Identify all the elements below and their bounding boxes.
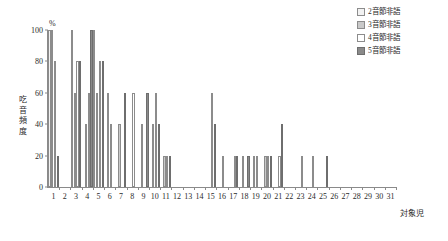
x-axis-tick-mark	[295, 187, 296, 190]
x-axis-tick-label: 3	[74, 192, 78, 201]
bar	[312, 156, 314, 187]
bar	[214, 124, 216, 187]
x-axis-tick-label: 22	[285, 192, 293, 201]
x-axis-tick-label: 15	[207, 192, 215, 201]
bar	[326, 156, 328, 187]
x-axis-tick-label: 10	[151, 192, 159, 201]
bar	[118, 124, 120, 187]
x-axis-tick-mark	[183, 187, 184, 190]
bar	[57, 156, 59, 187]
bar	[169, 156, 171, 187]
x-axis-tick-label: 5	[97, 192, 101, 201]
x-axis-title: 対象児	[400, 207, 424, 218]
x-axis-tick-mark	[59, 187, 60, 190]
bar	[79, 61, 81, 187]
x-axis-tick-label: 12	[173, 192, 181, 201]
x-axis-tick-label: 14	[196, 192, 204, 201]
y-axis-unit: %	[49, 19, 56, 28]
x-axis-tick-mark	[216, 187, 217, 190]
x-axis-tick-mark	[273, 187, 274, 190]
x-axis-tick-label: 1	[52, 192, 56, 201]
x-axis-tick-mark	[351, 187, 352, 190]
x-axis-tick-mark	[171, 187, 172, 190]
bar	[270, 156, 272, 187]
x-axis-tick-label: 30	[375, 192, 383, 201]
x-axis-tick-mark	[93, 187, 94, 190]
x-axis-tick-mark	[396, 187, 397, 190]
bar	[236, 156, 238, 187]
x-axis-tick-label: 29	[364, 192, 372, 201]
bar	[301, 156, 303, 187]
x-axis-tick-mark	[340, 187, 341, 190]
x-axis-tick-label: 2	[63, 192, 67, 201]
plot-area: 0204060801001234567891011121314151617181…	[47, 30, 396, 188]
x-axis-tick-label: 8	[130, 192, 134, 201]
x-axis-tick-label: 11	[162, 192, 170, 201]
legend-item-2: 2音節非語	[357, 6, 445, 17]
chart-root: 2音節非語 3音節非語 4音節非語 5音節非語 % 吃音頻度 020406080…	[0, 0, 448, 241]
x-axis-tick-mark	[160, 187, 161, 190]
x-axis-tick-label: 9	[141, 192, 145, 201]
x-axis-tick-mark	[70, 187, 71, 190]
bar	[146, 93, 148, 187]
legend-label-2-syllable: 2音節非語	[368, 6, 400, 17]
x-axis-tick-label: 27	[341, 192, 349, 201]
x-axis-tick-label: 25	[319, 192, 327, 201]
legend-label-3-syllable: 3音節非語	[368, 19, 400, 30]
bar	[141, 124, 143, 187]
x-axis-tick-label: 4	[85, 192, 89, 201]
x-axis-tick-mark	[194, 187, 195, 190]
x-axis-tick-mark	[239, 187, 240, 190]
bar	[247, 156, 249, 187]
bar	[222, 156, 224, 187]
bar	[242, 156, 244, 187]
x-axis-tick-label: 16	[218, 192, 226, 201]
x-axis-tick-label: 23	[297, 192, 305, 201]
x-axis-tick-mark	[284, 187, 285, 190]
x-axis-tick-mark	[228, 187, 229, 190]
x-axis-tick-label: 28	[353, 192, 361, 201]
x-axis-tick-mark	[385, 187, 386, 190]
legend-swatch-2-syllable-icon	[357, 8, 365, 16]
x-axis-tick-label: 20	[263, 192, 271, 201]
x-axis-tick-mark	[138, 187, 139, 190]
legend-swatch-3-syllable-icon	[357, 21, 365, 29]
x-axis-tick-label: 7	[119, 192, 123, 201]
x-axis-tick-label: 26	[330, 192, 338, 201]
x-axis-tick-mark	[115, 187, 116, 190]
bar	[110, 124, 112, 187]
x-axis-tick-mark	[250, 187, 251, 190]
x-axis-tick-mark	[306, 187, 307, 190]
x-axis-tick-label: 18	[240, 192, 248, 201]
legend-item-3: 3音節非語	[357, 19, 445, 30]
x-axis-tick-mark	[127, 187, 128, 190]
bar	[102, 61, 104, 187]
x-axis-tick-mark	[374, 187, 375, 190]
x-axis-tick-mark	[261, 187, 262, 190]
bar	[281, 124, 283, 187]
x-axis-tick-label: 13	[184, 192, 192, 201]
bar	[256, 156, 258, 187]
x-axis-tick-mark	[149, 187, 150, 190]
bar	[124, 93, 126, 187]
x-axis-tick-mark	[317, 187, 318, 190]
y-axis-title: 吃音頻度	[17, 95, 28, 137]
bar	[90, 30, 92, 187]
x-axis-tick-mark	[362, 187, 363, 190]
x-axis-tick-label: 21	[274, 192, 282, 201]
bar	[132, 93, 134, 187]
x-axis-tick-mark	[329, 187, 330, 190]
x-axis-tick-label: 17	[229, 192, 237, 201]
x-axis-tick-label: 6	[108, 192, 112, 201]
x-axis-tick-label: 24	[308, 192, 316, 201]
x-axis-tick-label: 31	[386, 192, 394, 201]
x-axis-tick-mark	[104, 187, 105, 190]
bar	[158, 124, 160, 187]
x-axis-tick-mark	[82, 187, 83, 190]
x-axis-tick-mark	[205, 187, 206, 190]
x-axis-tick-label: 19	[252, 192, 260, 201]
